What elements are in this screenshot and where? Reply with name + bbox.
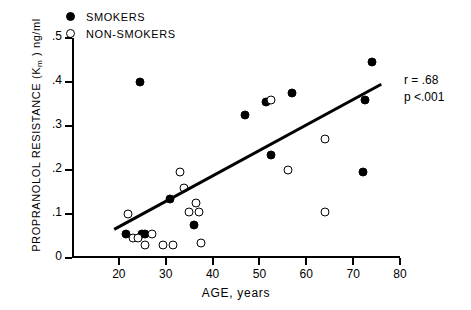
y-tick: 0 <box>65 257 72 259</box>
x-tick-label: 50 <box>253 267 266 281</box>
legend-label-smokers: SMOKERS <box>86 11 145 23</box>
y-tick-label: .5 <box>52 29 62 43</box>
stats-annotation: r = .68 p <.001 <box>404 72 444 106</box>
y-tick: .1 <box>65 213 72 215</box>
x-tick-label: 40 <box>206 267 219 281</box>
y-axis-title-container: PROPRANOLOL RESISTANCE (Km ) ng/ml <box>0 0 26 280</box>
x-tick: 80 <box>399 258 401 265</box>
x-tick-label: 70 <box>346 267 359 281</box>
fit-line-segment <box>114 84 381 229</box>
y-tick-label: .2 <box>52 161 62 175</box>
x-tick: 40 <box>212 258 214 265</box>
x-tick: 20 <box>118 258 120 265</box>
x-tick: 50 <box>258 258 260 265</box>
y-tick-label: .4 <box>52 73 62 87</box>
x-tick: 60 <box>305 258 307 265</box>
y-tick: .4 <box>65 81 72 83</box>
filled-circle-icon <box>66 12 75 21</box>
correlation-value: r = .68 <box>404 72 444 89</box>
plot-area: 0.1.2.3.4.5 20304050607080 <box>72 38 400 258</box>
y-axis-title: PROPRANOLOL RESISTANCE (Km ) ng/ml <box>30 15 44 255</box>
y-tick-label: 0 <box>55 249 62 263</box>
x-tick: 70 <box>352 258 354 265</box>
x-tick-label: 80 <box>393 267 406 281</box>
y-tick-label: .3 <box>52 117 62 131</box>
x-tick-label: 60 <box>300 267 313 281</box>
x-tick: 30 <box>165 258 167 265</box>
y-tick: .2 <box>65 169 72 171</box>
y-tick-label: .1 <box>52 205 62 219</box>
x-tick-label: 20 <box>112 267 125 281</box>
y-axis-title-tail: ) ng/ml <box>30 18 42 59</box>
y-tick: .3 <box>65 125 72 127</box>
x-axis-title: AGE, years <box>72 286 400 300</box>
legend: SMOKERS NON-SMOKERS <box>66 8 176 42</box>
figure: PROPRANOLOL RESISTANCE (Km ) ng/ml SMOKE… <box>0 0 471 310</box>
p-value: p <.001 <box>404 89 444 106</box>
legend-item-smokers: SMOKERS <box>66 8 176 25</box>
y-axis-title-main: PROPRANOLOL RESISTANCE (K <box>30 67 42 252</box>
regression-line <box>72 38 400 258</box>
y-tick: .5 <box>65 37 72 39</box>
x-tick-label: 30 <box>159 267 172 281</box>
y-axis-title-subscript: m <box>35 60 44 67</box>
